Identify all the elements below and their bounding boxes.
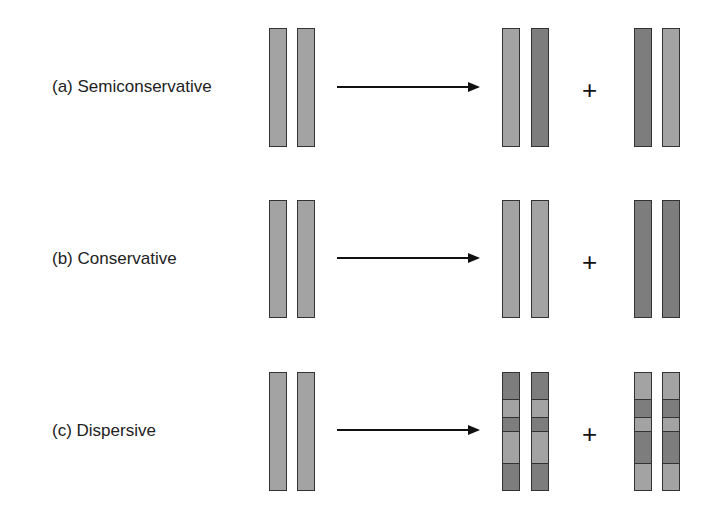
- product-strand-new: [531, 28, 549, 147]
- label-semiconservative: (a) Semiconservative: [52, 77, 212, 97]
- product-strand-mixed: [531, 372, 549, 491]
- parent-strand: [297, 372, 315, 491]
- plus-icon: +: [582, 421, 597, 447]
- product-strand-new: [634, 200, 652, 318]
- product-strand-new: [662, 200, 680, 318]
- product-strand-mixed: [634, 372, 652, 491]
- product-strand-new: [634, 28, 652, 147]
- arrow-icon: [337, 257, 478, 259]
- parent-strand: [269, 372, 287, 491]
- product-strand-mixed: [502, 372, 520, 491]
- label-dispersive: (c) Dispersive: [52, 421, 156, 441]
- arrow-icon: [337, 86, 478, 88]
- product-strand-old: [502, 200, 520, 318]
- parent-strand: [269, 200, 287, 318]
- parent-strand: [297, 28, 315, 147]
- product-strand-old: [662, 28, 680, 147]
- label-conservative: (b) Conservative: [52, 249, 177, 269]
- parent-strand: [269, 28, 287, 147]
- parent-strand: [297, 200, 315, 318]
- product-strand-old: [502, 28, 520, 147]
- plus-icon: +: [582, 249, 597, 275]
- product-strand-mixed: [662, 372, 680, 491]
- plus-icon: +: [582, 77, 597, 103]
- arrow-icon: [337, 429, 478, 431]
- product-strand-old: [531, 200, 549, 318]
